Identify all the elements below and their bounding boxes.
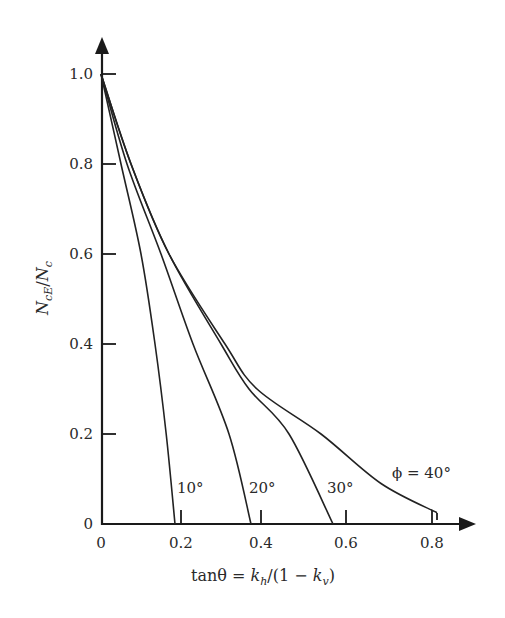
- x-axis-arrow-icon: [459, 517, 476, 531]
- y-ticks: 1.0 0.8 0.6 0.4 0.2 0: [69, 65, 116, 533]
- curve-label-10: 10°: [177, 479, 204, 497]
- y-tick-label: 0.8: [69, 155, 93, 173]
- chart: 1.0 0.8 0.6 0.4 0.2 0 0 0.2 0.4 0.6 0.8 …: [0, 0, 505, 618]
- curve-phi-30: [101, 74, 333, 524]
- y-axis-arrow-icon: [95, 37, 109, 54]
- curve-label-40: ϕ = 40°: [392, 464, 451, 482]
- y-axis-title: NcE/Nc: [33, 261, 55, 316]
- curve-labels: 10° 20° 30° ϕ = 40°: [177, 464, 451, 497]
- axes: [95, 37, 476, 531]
- curve-phi-10: [101, 74, 175, 524]
- x-tick-label: 0.4: [249, 534, 273, 552]
- x-axis-title: tanθ = kh/(1 − kv): [191, 566, 335, 588]
- curves: [101, 74, 437, 524]
- y-tick-label: 0: [83, 515, 93, 533]
- x-tick-label: 0.6: [334, 534, 358, 552]
- x-ticks: 0 0.2 0.4 0.6 0.8: [96, 510, 444, 552]
- curve-label-30: 30°: [327, 479, 354, 497]
- x-tick-label: 0.2: [169, 534, 193, 552]
- y-tick-label: 0.4: [69, 335, 93, 353]
- x-tick-label: 0.8: [420, 534, 444, 552]
- y-tick-label: 1.0: [69, 65, 93, 83]
- y-tick-label: 0.2: [69, 425, 93, 443]
- curve-phi-40: [101, 74, 437, 513]
- y-tick-label: 0.6: [69, 245, 93, 263]
- curve-label-20: 20°: [249, 479, 276, 497]
- x-tick-label: 0: [96, 534, 106, 552]
